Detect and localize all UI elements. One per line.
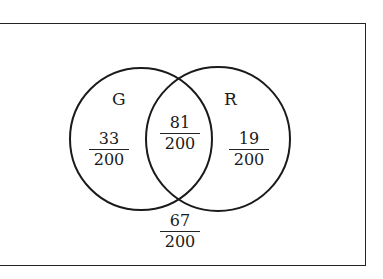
set-label-g: G [112, 91, 126, 108]
denominator: 200 [227, 150, 271, 168]
fraction-r-only: 19 200 [227, 131, 271, 168]
numerator: 81 [158, 115, 202, 133]
set-label-r: R [224, 91, 237, 108]
denominator: 200 [87, 150, 131, 168]
denominator: 200 [158, 134, 202, 152]
fraction-g-only: 33 200 [87, 131, 131, 168]
fraction-g-and-r: 81 200 [158, 115, 202, 152]
numerator: 19 [227, 131, 271, 149]
numerator: 67 [158, 213, 202, 231]
fraction-neither: 67 200 [158, 213, 202, 250]
denominator: 200 [158, 232, 202, 250]
numerator: 33 [87, 131, 131, 149]
